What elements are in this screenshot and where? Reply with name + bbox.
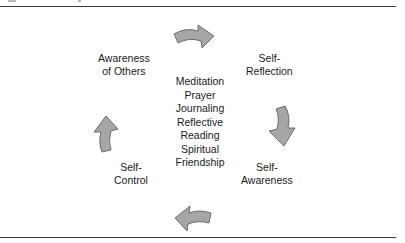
- node-label-line: of Others: [98, 65, 150, 78]
- node-label-line: Self-: [114, 161, 148, 174]
- practice-item: Friendship: [175, 156, 224, 170]
- arrow-left-icon: [173, 203, 213, 233]
- practice-item: Reflective: [175, 116, 224, 130]
- node-self-control: Self- Control: [114, 161, 148, 187]
- arrow-right-icon: [172, 22, 216, 52]
- node-self-reflection: Self- Reflection: [246, 52, 293, 78]
- practice-item: Prayer: [175, 89, 224, 103]
- practice-item: Reading: [175, 129, 224, 143]
- node-label-line: Self-: [241, 161, 293, 174]
- arrow-up-icon: [92, 114, 124, 154]
- node-label-line: Self-: [246, 52, 293, 65]
- node-label-line: Control: [114, 174, 148, 187]
- arrow-down-icon: [266, 104, 298, 148]
- clipped-caption-fragment: [78, 0, 81, 2]
- practice-item: Journaling: [175, 102, 224, 116]
- node-self-awareness: Self- Awareness: [241, 161, 293, 187]
- node-label-line: Reflection: [246, 65, 293, 78]
- node-label-line: Awareness: [98, 52, 150, 65]
- node-awareness-of-others: Awareness of Others: [98, 52, 150, 78]
- bottom-rule: [0, 237, 396, 238]
- practice-item: Spiritual: [175, 143, 224, 157]
- top-rule: [0, 6, 396, 7]
- clipped-caption-fragment: [8, 0, 16, 2]
- center-practices-list: Meditation Prayer Journaling Reflective …: [175, 75, 224, 170]
- practice-item: Meditation: [175, 75, 224, 89]
- node-label-line: Awareness: [241, 174, 293, 187]
